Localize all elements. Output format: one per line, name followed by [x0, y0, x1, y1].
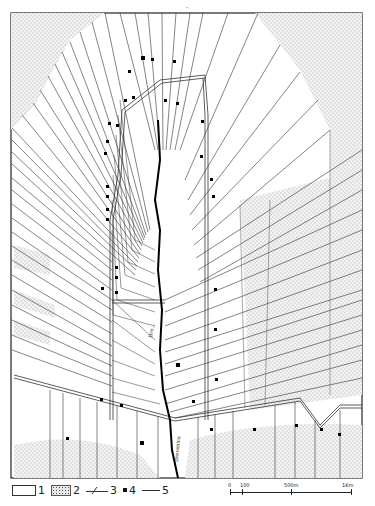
legend-num: 5: [162, 484, 169, 497]
stippled-field-swatch-icon: [51, 485, 71, 496]
boundary-line-icon: [142, 490, 160, 491]
legend-num: 4: [129, 484, 136, 497]
map-legend: 1 2 3 4 5: [12, 482, 169, 498]
legend-item-4: 4: [123, 484, 136, 497]
scale-bar: 0 100 500m 1Km: [228, 482, 356, 498]
scale-tick: [242, 489, 243, 495]
legend-num: 3: [110, 484, 117, 497]
scale-label-100: 100: [240, 482, 250, 488]
legend-item-1: 1: [12, 484, 45, 497]
blank-field-swatch-icon: [12, 485, 36, 496]
legend-num: 2: [73, 484, 80, 497]
scale-tick: [291, 489, 292, 495]
legend-num: 1: [38, 484, 45, 497]
legend-item-2: 2: [51, 484, 80, 497]
scale-label-0: 0: [228, 482, 231, 488]
scale-label-1km: 1Km: [342, 482, 353, 488]
legend-item-3: 3: [86, 484, 117, 497]
map-figure: Dre... Drevenica: [0, 0, 375, 506]
scale-tick: [351, 489, 352, 495]
legend-item-5: 5: [142, 484, 169, 497]
scale-label-500: 500m: [284, 482, 298, 488]
farmstead-square-icon: [123, 488, 127, 492]
road-canal-icon: [86, 486, 108, 495]
scale-tick: [230, 489, 231, 495]
